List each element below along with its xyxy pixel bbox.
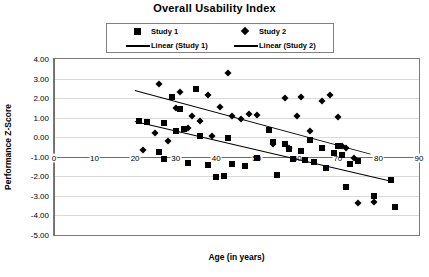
data-point (193, 86, 199, 92)
data-point (225, 135, 231, 141)
data-point (229, 161, 235, 167)
data-point (290, 156, 296, 162)
data-point (196, 117, 203, 124)
data-point (254, 155, 260, 161)
data-points (54, 59, 419, 235)
y-axis-title-text: Performance Z-Score (3, 104, 13, 190)
data-point (140, 146, 147, 153)
data-point (311, 159, 317, 165)
data-point (342, 144, 349, 151)
square-marker-icon (125, 24, 151, 39)
data-point (164, 138, 171, 145)
y-axis-tick-label: 3.00 (33, 74, 49, 83)
data-point (161, 120, 167, 126)
y-axis-tick-label: 4.00 (33, 55, 49, 64)
data-point (274, 172, 280, 178)
data-point (209, 133, 216, 140)
x-axis-title: Age (in years) (53, 252, 420, 262)
line-swatch-icon (233, 38, 259, 53)
data-point (229, 112, 236, 119)
y-axis-tick-label: -3.00 (31, 191, 49, 200)
legend-item-study-1: Study 1 (125, 24, 178, 39)
data-point (197, 133, 203, 139)
legend-label: Linear (Study 1) (151, 41, 208, 50)
data-point (144, 119, 150, 125)
data-point (237, 115, 244, 122)
data-point (225, 69, 232, 76)
data-point (156, 81, 163, 88)
y-axis-title: Performance Z-Score (2, 58, 14, 236)
data-point (213, 174, 219, 180)
legend-row: Linear (Study 1) Linear (Study 2) (107, 38, 335, 53)
data-point (156, 149, 162, 155)
data-point (294, 112, 301, 119)
data-point (282, 95, 289, 102)
data-point (152, 130, 159, 137)
line-swatch-icon (125, 38, 151, 53)
data-point (173, 128, 179, 134)
data-point (188, 112, 195, 119)
data-point (298, 94, 305, 101)
legend-label: Study 1 (151, 27, 178, 36)
plot-area: 4.003.002.001.000.00-1.00-2.00-3.00-4.00… (53, 58, 420, 236)
data-point (323, 165, 329, 171)
data-point (307, 137, 313, 143)
data-point (242, 163, 248, 169)
chart-container: Overall Usability Index Study 1 Study 2 … (0, 0, 429, 277)
data-point (347, 161, 353, 167)
y-axis-tick-label: -4.00 (31, 211, 49, 220)
legend-row: Study 1 Study 2 (107, 24, 335, 39)
legend-label: Linear (Study 2) (259, 41, 316, 50)
data-point (334, 113, 341, 120)
data-point (326, 92, 333, 99)
data-point (169, 94, 175, 100)
data-point (302, 157, 308, 163)
data-point (371, 198, 378, 205)
data-point (392, 204, 398, 210)
legend-item-linear-study-2: Linear (Study 2) (233, 38, 316, 53)
data-point (298, 148, 304, 154)
data-point (136, 118, 142, 124)
data-point (185, 160, 191, 166)
data-point (217, 103, 224, 110)
data-point (221, 173, 227, 179)
data-point (205, 92, 212, 99)
data-point (176, 89, 183, 96)
data-point (355, 199, 362, 206)
data-point (388, 177, 394, 183)
legend-item-linear-study-1: Linear (Study 1) (125, 38, 208, 53)
data-point (306, 128, 313, 135)
y-axis-tick-label: 0.00 (33, 133, 49, 142)
diamond-marker-icon (233, 24, 259, 39)
data-point (318, 97, 325, 104)
chart-legend: Study 1 Study 2 Linear (Study 1) Linear … (106, 23, 334, 53)
y-axis-tick-label: -5.00 (31, 231, 49, 240)
chart-title: Overall Usability Index (0, 2, 429, 14)
y-axis-tick-label: 2.00 (33, 94, 49, 103)
data-point (339, 152, 345, 158)
data-point (266, 127, 272, 133)
data-point (319, 145, 325, 151)
data-point (161, 156, 167, 162)
data-point (253, 111, 260, 118)
data-point (245, 110, 252, 117)
y-axis-tick-label: 1.00 (33, 113, 49, 122)
legend-label: Study 2 (259, 27, 286, 36)
data-point (331, 150, 337, 156)
y-axis-tick-label: -2.00 (31, 172, 49, 181)
data-point (343, 184, 349, 190)
y-axis-tick-label: -1.00 (31, 152, 49, 161)
legend-item-study-2: Study 2 (233, 24, 286, 39)
data-point (205, 162, 211, 168)
